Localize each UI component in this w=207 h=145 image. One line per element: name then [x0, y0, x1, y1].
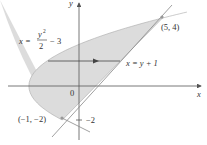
tick-label-minus-2: −2	[86, 115, 95, 125]
line-equation-label: x = y + 1	[125, 58, 158, 68]
origin-label: 0	[70, 88, 74, 98]
svg-text:2: 2	[39, 41, 43, 51]
point-label-5-4: (5, 4)	[161, 22, 180, 32]
svg-text:x =: x =	[18, 36, 31, 46]
region-diagram: y x 0 (5, 4) (−1, −2) −2 x = y + 1 x = y…	[0, 0, 207, 145]
svg-text:y: y	[37, 29, 42, 39]
point-neg1-neg2	[60, 116, 63, 119]
shaded-region-fill	[29, 18, 163, 120]
x-axis-label: x	[196, 89, 201, 99]
parabola-extension	[163, 12, 187, 18]
parabola-equation-label: x = y 2 2 − 3	[18, 28, 61, 51]
svg-text:2: 2	[43, 28, 46, 34]
svg-text:− 3: − 3	[50, 36, 61, 46]
point-5-4	[160, 15, 163, 18]
y-axis-label: y	[68, 0, 73, 8]
point-label-neg1-neg2: (−1, −2)	[18, 114, 46, 124]
